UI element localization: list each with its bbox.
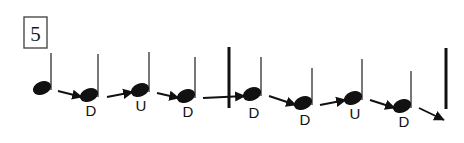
measure-number-label: 5 — [30, 22, 41, 46]
arrow-2 — [107, 92, 133, 97]
arrow-3 — [157, 93, 179, 98]
notation-canvas: 5 DUDDDUD — [0, 0, 464, 143]
stroke-label-d: D — [183, 103, 194, 120]
strum-pattern-figure: 5 DUDDDUD — [0, 0, 464, 143]
note-1 — [31, 53, 54, 98]
stroke-labels-group: DUDDDUD — [86, 97, 410, 130]
arrow-8 — [419, 108, 444, 120]
arrow-6 — [320, 100, 346, 105]
measure-number-box: 5 — [24, 17, 47, 48]
arrow-7 — [370, 100, 395, 108]
note-head — [292, 93, 315, 112]
note-head — [241, 84, 264, 103]
stroke-label-d: D — [86, 102, 97, 119]
stroke-label-u: U — [350, 105, 361, 122]
stroke-label-d: D — [300, 111, 311, 128]
arrow-5 — [269, 96, 296, 105]
note-8 — [391, 71, 414, 116]
arrow-1 — [58, 91, 82, 97]
note-6 — [292, 68, 315, 113]
stroke-label-u: U — [136, 97, 147, 114]
stroke-label-d: D — [249, 104, 260, 121]
note-head — [31, 78, 54, 97]
arrow-4 — [203, 96, 245, 98]
stroke-label-d: D — [399, 113, 410, 130]
